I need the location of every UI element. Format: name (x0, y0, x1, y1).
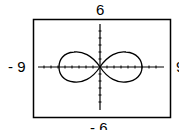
frame (34, 20, 171, 118)
graph (0, 0, 179, 130)
